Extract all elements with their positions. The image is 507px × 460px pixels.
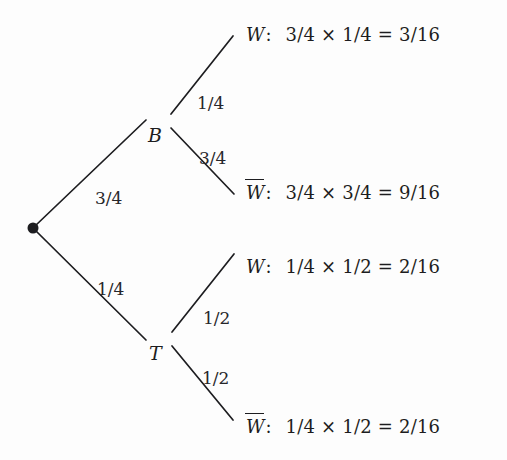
edge-label-b-to-w: 1/4 [197, 95, 224, 112]
outcome-label: W [246, 418, 265, 436]
outcome-row-w-1: W : 3/4 × 1/4 = 3/16 [246, 26, 440, 44]
edge-label-root-to-b: 3/4 [95, 190, 122, 207]
node-label-t: T [149, 344, 162, 363]
outcome-colon: : [266, 258, 272, 276]
branch-line-root-to-T [35, 230, 146, 340]
outcome-row-wbar-2: W : 1/4 × 1/2 = 2/16 [246, 418, 440, 436]
branch-line-root-to-B [35, 120, 146, 226]
tree-branch-lines [0, 0, 507, 460]
root-node-dot [28, 223, 39, 234]
outcome-label: W [246, 184, 265, 202]
probability-tree-diagram: B T 3/4 1/4 1/4 3/4 1/2 1/2 W : 3/4 × 1/… [0, 0, 507, 460]
outcome-label: W [246, 258, 265, 276]
edge-label-t-to-w: 1/2 [203, 310, 230, 327]
outcome-expression: 1/4 × 1/2 = 2/16 [286, 418, 441, 436]
node-label-b: B [148, 126, 162, 145]
edge-label-t-to-wbar: 1/2 [202, 370, 229, 387]
outcome-colon: : [266, 26, 272, 44]
outcome-expression: 1/4 × 1/2 = 2/16 [286, 258, 441, 276]
outcome-colon: : [266, 418, 272, 436]
edge-label-root-to-t: 1/4 [97, 281, 124, 298]
outcome-expression: 3/4 × 3/4 = 9/16 [286, 184, 441, 202]
outcome-expression: 3/4 × 1/4 = 3/16 [286, 26, 441, 44]
outcome-colon: : [266, 184, 272, 202]
outcome-row-w-2: W : 1/4 × 1/2 = 2/16 [246, 258, 440, 276]
outcome-row-wbar-1: W : 3/4 × 3/4 = 9/16 [246, 184, 440, 202]
edge-label-b-to-wbar: 3/4 [199, 150, 226, 167]
outcome-label: W [246, 26, 265, 44]
